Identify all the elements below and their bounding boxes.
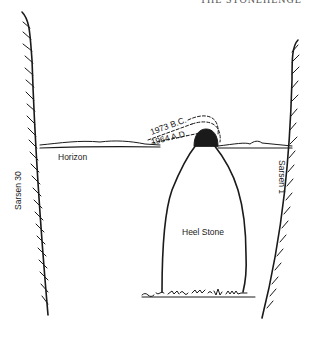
sun-disk-1964 (194, 129, 218, 146)
heel-stone-text: Heel Stone (182, 227, 224, 237)
sarsen-1-text: Sarsen 1 (277, 160, 287, 194)
diagram-canvas (0, 0, 320, 337)
sarsen-30-text: Sarsen 30 (13, 171, 23, 210)
sarsen-30-edge (22, 12, 48, 315)
horizon-label: Horizon (58, 153, 87, 162)
sarsen-30-label: Sarsen 30 (14, 171, 23, 210)
horizon-text: Horizon (58, 152, 87, 162)
heel-stone-label: Heel Stone (182, 228, 224, 237)
heel-stone-outline (162, 145, 246, 292)
ground-grass (142, 289, 255, 297)
sarsen-1-label: Sarsen 1 (278, 160, 287, 194)
